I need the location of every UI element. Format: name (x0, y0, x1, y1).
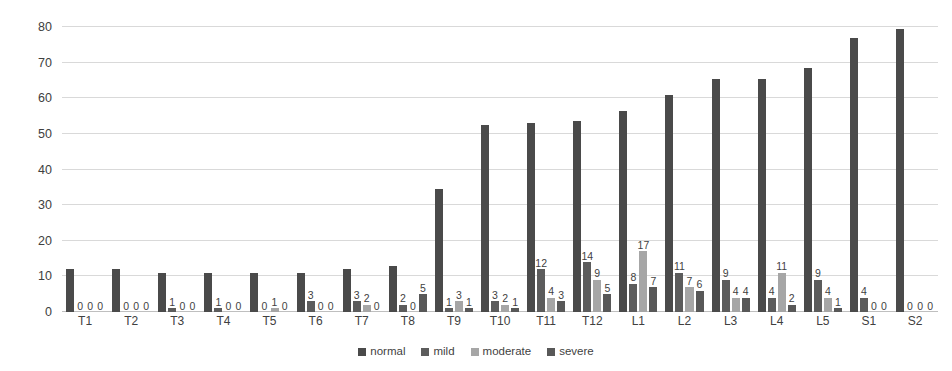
bar-normal[interactable] (158, 273, 166, 312)
bar-group-bars: 8177 (615, 27, 661, 312)
bar-mild[interactable] (814, 280, 822, 312)
bar-mild[interactable] (537, 269, 545, 312)
legend-swatch-icon (547, 348, 555, 356)
legend-item-mild[interactable]: mild (421, 346, 454, 358)
bar-normal[interactable] (573, 121, 581, 312)
bar-mild[interactable] (675, 273, 683, 312)
bar-normal[interactable] (619, 111, 627, 312)
bar-severe[interactable] (603, 294, 611, 312)
bar-group-bars: 4112 (754, 27, 800, 312)
bar-moderate[interactable] (501, 305, 509, 312)
bar-value-label: 0 (179, 301, 185, 312)
bar-mild[interactable] (860, 298, 868, 312)
bar-value-label: 0 (87, 301, 93, 312)
bar-moderate[interactable] (271, 308, 279, 312)
bar-moderate[interactable] (824, 298, 832, 312)
bar-severe[interactable] (788, 305, 796, 312)
bar-moderate[interactable] (363, 305, 371, 312)
bar-slot: 0 (916, 27, 924, 312)
bar-chart: 01020304050607080 0000001001000103003202… (0, 0, 952, 371)
bar-normal[interactable] (804, 68, 812, 312)
legend-item-severe[interactable]: severe (547, 346, 594, 358)
bar-normal[interactable] (712, 79, 720, 312)
bar-value-label: 0 (871, 301, 877, 312)
bar-severe[interactable] (742, 298, 750, 312)
bar-severe[interactable] (649, 287, 657, 312)
bar-normal[interactable] (112, 269, 120, 312)
bar-value-label: 3 (308, 290, 314, 301)
bar-severe[interactable] (696, 291, 704, 312)
bar-slot: 4 (824, 27, 832, 312)
bar-mild[interactable] (168, 308, 176, 312)
bar-slot (389, 27, 397, 312)
bar-normal[interactable] (204, 273, 212, 312)
bar-slot: 3 (557, 27, 565, 312)
bar-moderate[interactable] (455, 301, 463, 312)
bar-value-label: 0 (328, 301, 334, 312)
bar-group-bars: 000 (892, 27, 938, 312)
bar-mild[interactable] (629, 284, 637, 313)
bar-mild[interactable] (491, 301, 499, 312)
bar-mild[interactable] (214, 308, 222, 312)
bar-normal[interactable] (389, 266, 397, 312)
bar-severe[interactable] (557, 301, 565, 312)
bar-value-label: 4 (825, 286, 831, 297)
bar-normal[interactable] (850, 38, 858, 312)
bar-slot: 2 (501, 27, 509, 312)
bar-value-label: 0 (189, 301, 195, 312)
bar-value-label: 0 (133, 301, 139, 312)
legend-item-moderate[interactable]: moderate (471, 346, 532, 358)
bar-normal[interactable] (896, 29, 904, 312)
legend-item-normal[interactable]: normal (358, 346, 405, 358)
bar-normal[interactable] (665, 95, 673, 312)
bar-mild[interactable] (583, 262, 591, 312)
bar-value-label: 1 (272, 297, 278, 308)
x-axis-tick-label: L3 (708, 315, 754, 327)
bar-slot: 1 (271, 27, 279, 312)
bar-mild[interactable] (399, 305, 407, 312)
bar-slot: 0 (281, 27, 289, 312)
bar-moderate[interactable] (685, 287, 693, 312)
bar-normal[interactable] (66, 269, 74, 312)
bar-slot: 5 (603, 27, 611, 312)
bar-normal[interactable] (481, 125, 489, 312)
bar-group: 300 (293, 27, 339, 312)
bar-slot (573, 27, 581, 312)
bar-mild[interactable] (768, 298, 776, 312)
bar-normal[interactable] (297, 273, 305, 312)
bar-moderate[interactable] (778, 273, 786, 312)
bar-normal[interactable] (758, 79, 766, 312)
bar-mild[interactable] (722, 280, 730, 312)
bar-moderate[interactable] (732, 298, 740, 312)
bar-value-label: 2 (789, 293, 795, 304)
bar-slot: 1 (511, 27, 519, 312)
bar-mild[interactable] (307, 301, 315, 312)
bar-moderate[interactable] (593, 280, 601, 312)
bar-normal[interactable] (527, 123, 535, 312)
bar-normal[interactable] (435, 189, 443, 312)
bar-mild[interactable] (353, 301, 361, 312)
bar-severe[interactable] (465, 308, 473, 312)
bar-group-bars: 1495 (569, 27, 615, 312)
bar-value-label: 5 (420, 283, 426, 294)
bar-slot: 0 (373, 27, 381, 312)
bar-severe[interactable] (834, 308, 842, 312)
bar-slot: 0 (132, 27, 140, 312)
legend-item-label: moderate (483, 346, 532, 358)
bar-slot (850, 27, 858, 312)
bar-moderate[interactable] (547, 298, 555, 312)
x-axis-tick-label: T2 (108, 315, 154, 327)
bar-normal[interactable] (250, 273, 258, 312)
bar-severe[interactable] (419, 294, 427, 312)
bar-slot: 1 (445, 27, 453, 312)
bar-moderate[interactable] (639, 251, 647, 312)
bar-slot (712, 27, 720, 312)
bar-value-label: 11 (674, 261, 685, 272)
legend-item-label: severe (559, 346, 594, 358)
bar-severe[interactable] (511, 308, 519, 312)
bar-slot: 1 (834, 27, 842, 312)
bar-mild[interactable] (445, 308, 453, 312)
bar-normal[interactable] (343, 269, 351, 312)
bar-slot (112, 27, 120, 312)
bar-slot: 7 (649, 27, 657, 312)
